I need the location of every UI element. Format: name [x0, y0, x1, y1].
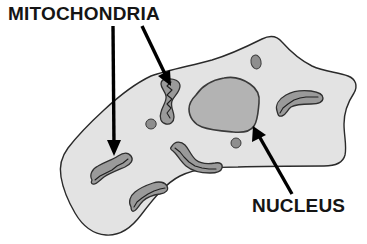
- mitochondria-arrow-left-shaft: [113, 26, 114, 146]
- label-nucleus: NUCLEUS: [252, 195, 345, 216]
- organelle-left-center: [146, 119, 156, 129]
- cell-diagram-figure: MITOCHONDRIA NUCLEUS: [0, 0, 367, 244]
- label-mitochondria: MITOCHONDRIA: [8, 3, 160, 24]
- diagram-canvas: MITOCHONDRIA NUCLEUS: [0, 0, 367, 244]
- organelle-below-nucleus: [231, 138, 241, 148]
